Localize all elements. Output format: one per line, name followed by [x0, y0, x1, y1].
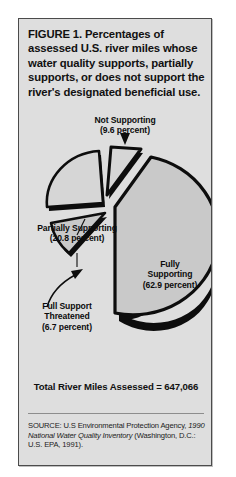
label-partially-supporting: Partially Supporting (20.8 percent) [21, 223, 133, 244]
label-fully-supporting: Fully Supporting (62.9 percent) [131, 259, 209, 290]
source-divider [28, 413, 204, 414]
figure-title: FIGURE 1. Percentages of assessed U.S. r… [28, 27, 206, 99]
source-prefix: SOURCE: U.S Environmental Protection Age… [28, 421, 188, 430]
full-support-threatened-arrow-icon [71, 269, 83, 279]
pie-chart: Not Supporting (9.6 percent) Partially S… [19, 111, 211, 371]
total-river-miles-assessed: Total River Miles Assessed = 647,066 [19, 381, 212, 392]
figure-card: FIGURE 1. Percentages of assessed U.S. r… [18, 18, 212, 466]
label-full-support-threatened: Full Support Threatened (6.7 percent) [21, 301, 113, 332]
slice-partially-supporting [47, 151, 103, 207]
source-note: SOURCE: U.S Environmental Protection Age… [28, 421, 208, 450]
label-not-supporting: Not Supporting (9.6 percent) [71, 115, 179, 136]
